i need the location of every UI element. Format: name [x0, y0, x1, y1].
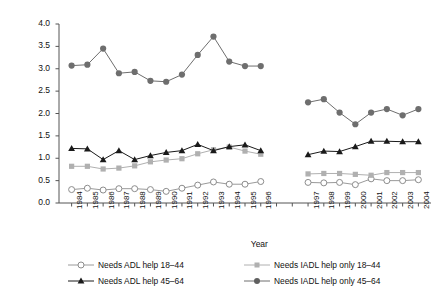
- data-point-open-circle: [195, 182, 201, 188]
- data-point-circle: [69, 63, 75, 69]
- series-line: [308, 99, 418, 124]
- data-point-circle: [321, 96, 327, 102]
- plot-area: [0, 0, 437, 300]
- data-point-open-circle: [226, 181, 232, 187]
- data-point-circle: [163, 79, 169, 85]
- data-point-triangle: [100, 156, 107, 162]
- data-point-square: [353, 172, 358, 177]
- x-axis-tick-label: 1998: [327, 191, 336, 209]
- x-axis-tick-label: 1999: [343, 191, 352, 209]
- filled-triangle-marker-icon: [68, 276, 94, 286]
- y-axis-tick-label: 4.0: [26, 18, 50, 28]
- x-axis-tick-label: 1996: [264, 191, 273, 209]
- chart-figure: Percent Year 0.00.51.01.52.02.53.03.54.0…: [0, 0, 437, 300]
- data-point-circle: [84, 62, 90, 68]
- y-axis-tick-label: 3.0: [26, 63, 50, 73]
- data-point-triangle: [194, 141, 201, 147]
- series-open-circle: [305, 176, 421, 188]
- data-point-circle: [415, 106, 421, 112]
- data-point-circle: [352, 121, 358, 127]
- data-point-circle: [258, 63, 264, 69]
- filled-circle-marker-icon: [244, 276, 270, 286]
- y-axis-tick-label: 1.5: [26, 130, 50, 140]
- x-axis-tick-label: 1987: [122, 191, 131, 209]
- x-axis-tick-label: 1984: [75, 191, 84, 209]
- data-point-triangle: [242, 141, 249, 147]
- legend-item-adl-45-64[interactable]: Needs ADL help 45–64: [68, 276, 184, 286]
- data-point-square: [132, 163, 137, 168]
- data-point-circle: [400, 112, 406, 118]
- data-point-circle: [305, 99, 311, 105]
- series-filled-circle: [69, 33, 264, 84]
- data-point-circle: [384, 106, 390, 112]
- legend-item-iadl-45-64[interactable]: Needs IADL help only 45–64: [244, 276, 380, 286]
- data-point-open-circle: [258, 179, 264, 185]
- data-point-open-circle: [210, 179, 216, 185]
- x-axis-tick-label: 2002: [390, 191, 399, 209]
- data-point-circle: [242, 63, 248, 69]
- x-axis-tick-label: 1986: [107, 191, 116, 209]
- data-point-square: [164, 157, 169, 162]
- data-point-square: [195, 151, 200, 156]
- data-point-open-circle: [384, 178, 390, 184]
- y-axis-tick-label: 2.0: [26, 108, 50, 118]
- data-point-square: [321, 171, 326, 176]
- y-axis-tick-label: 0.0: [26, 197, 50, 207]
- data-point-circle: [132, 69, 138, 75]
- x-axis-tick-label: 1997: [312, 191, 321, 209]
- legend-label: Needs ADL help 18–44: [98, 260, 184, 270]
- x-axis-tick-label: 2001: [375, 191, 384, 209]
- legend-item-iadl-18-44[interactable]: Needs IADL help only 18–44: [244, 260, 380, 270]
- data-point-circle: [195, 52, 201, 58]
- data-point-circle: [147, 78, 153, 84]
- x-axis-tick-label: 2004: [422, 191, 431, 209]
- legend-label: Needs IADL help only 45–64: [274, 276, 380, 286]
- data-point-open-circle: [321, 180, 327, 186]
- data-point-square: [369, 173, 374, 178]
- data-point-square: [116, 165, 121, 170]
- x-axis-tick-label: 1992: [201, 191, 210, 209]
- x-axis-tick-label: 1985: [91, 191, 100, 209]
- legend-item-adl-18-44[interactable]: Needs ADL help 18–44: [68, 260, 184, 270]
- y-axis-tick-label: 1.0: [26, 152, 50, 162]
- x-axis-tick-label: 2003: [406, 191, 415, 209]
- data-point-circle: [100, 46, 106, 52]
- data-point-open-circle: [84, 185, 90, 191]
- x-axis-tick-label: 1988: [138, 191, 147, 209]
- series-filled-square: [69, 144, 263, 171]
- data-point-circle: [226, 58, 232, 64]
- x-axis-tick-label: 1989: [154, 191, 163, 209]
- x-axis-tick-label: 2000: [359, 191, 368, 209]
- y-axis-tick-label: 0.5: [26, 175, 50, 185]
- data-point-square: [384, 170, 389, 175]
- data-point-square: [148, 159, 153, 164]
- data-point-square: [69, 164, 74, 169]
- data-point-open-circle: [69, 187, 75, 193]
- data-point-open-circle: [147, 187, 153, 193]
- series-line: [72, 37, 261, 82]
- data-point-triangle: [179, 147, 186, 153]
- data-point-open-circle: [337, 179, 343, 185]
- open-circle-marker-icon: [68, 260, 94, 270]
- data-point-square: [242, 148, 247, 153]
- x-axis-label: Year: [251, 239, 268, 249]
- data-point-open-circle: [305, 179, 311, 185]
- data-point-circle: [116, 70, 122, 76]
- x-axis-tick-label: 1994: [233, 191, 242, 209]
- x-axis-tick-label: 1995: [249, 191, 258, 209]
- data-point-triangle: [115, 147, 122, 153]
- data-point-square: [337, 171, 342, 176]
- filled-square-marker-icon: [244, 260, 270, 270]
- y-axis-tick-label: 2.5: [26, 85, 50, 95]
- series-filled-circle: [305, 96, 422, 127]
- data-point-open-circle: [132, 186, 138, 192]
- data-point-square: [305, 171, 310, 176]
- x-axis-tick-label: 1993: [217, 191, 226, 209]
- data-point-circle: [368, 110, 374, 116]
- chart-legend: Needs ADL help 18–44 Needs ADL help 45–6…: [0, 258, 437, 298]
- data-point-open-circle: [163, 188, 169, 194]
- data-point-circle: [336, 110, 342, 116]
- data-point-open-circle: [242, 181, 248, 187]
- data-point-square: [416, 170, 421, 175]
- data-point-square: [179, 156, 184, 161]
